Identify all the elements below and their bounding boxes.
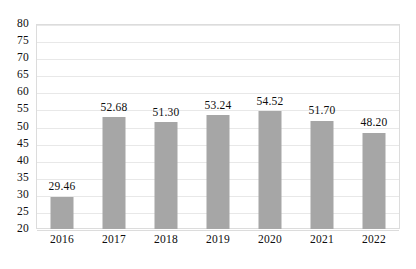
x-axis-tick-label: 2016	[50, 234, 74, 246]
bar	[311, 121, 334, 229]
y-axis-tick-label: 20	[17, 223, 29, 235]
bar-group: 51.30	[140, 24, 192, 229]
bar	[103, 117, 126, 229]
x-axis-tick-label: 2018	[154, 234, 178, 246]
x-axis: 2016201720182019202020212022	[36, 234, 400, 254]
y-axis-tick-label: 40	[17, 155, 29, 167]
x-axis-tick-label: 2017	[102, 234, 126, 246]
y-axis-tick-label: 70	[17, 52, 29, 64]
y-axis: 80757065605550454035302520	[0, 24, 32, 229]
bar-value-label: 54.52	[257, 96, 284, 108]
x-axis-tick-label: 2020	[258, 234, 282, 246]
y-axis-tick-label: 60	[17, 87, 29, 99]
y-axis-tick-label: 25	[17, 206, 29, 218]
y-axis-tick-label: 50	[17, 121, 29, 133]
x-axis-tick-label: 2022	[362, 234, 386, 246]
bar-group: 52.68	[88, 24, 140, 229]
bar-value-label: 48.20	[361, 117, 388, 129]
bar-group: 54.52	[244, 24, 296, 229]
bar-value-label: 51.30	[153, 107, 180, 119]
bar-group: 29.46	[36, 24, 88, 229]
bar	[51, 197, 74, 229]
bar-value-label: 29.46	[49, 181, 76, 193]
bar-group: 48.20	[348, 24, 400, 229]
x-axis-tick-label: 2019	[206, 234, 230, 246]
bar-value-label: 52.68	[101, 102, 128, 114]
y-axis-tick-label: 65	[17, 70, 29, 82]
bar-group: 53.24	[192, 24, 244, 229]
y-axis-tick-label: 45	[17, 138, 29, 150]
gridline	[37, 230, 399, 231]
bar-chart: 80757065605550454035302520 29.4652.6851.…	[0, 0, 416, 269]
y-axis-tick-label: 35	[17, 172, 29, 184]
y-axis-tick-label: 55	[17, 104, 29, 116]
x-axis-tick-label: 2021	[310, 234, 334, 246]
bars-layer: 29.4652.6851.3053.2454.5251.7048.20	[36, 24, 400, 229]
bar-value-label: 53.24	[205, 100, 232, 112]
bar	[363, 133, 386, 229]
y-axis-tick-label: 75	[17, 35, 29, 47]
y-axis-tick-label: 30	[17, 189, 29, 201]
bar	[207, 115, 230, 229]
bar-value-label: 51.70	[309, 105, 336, 117]
bar-group: 51.70	[296, 24, 348, 229]
bar	[155, 122, 178, 229]
y-axis-tick-label: 80	[17, 18, 29, 30]
bar	[259, 111, 282, 229]
